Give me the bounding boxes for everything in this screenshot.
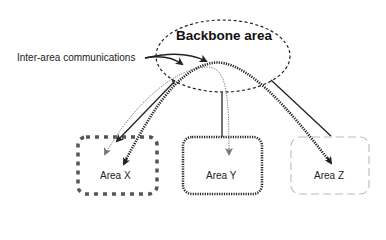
thin-dotted-arc — [106, 67, 229, 153]
inter-area-annotation: Inter-area communications — [17, 52, 135, 63]
area-z-box — [291, 137, 369, 194]
inter-area-arc — [124, 63, 330, 163]
area-y-label: Area Y — [206, 170, 236, 181]
link-backbone-x — [117, 81, 175, 141]
annotation-arrow-1 — [145, 57, 182, 64]
area-y-box — [183, 137, 262, 194]
link-backbone-z — [271, 80, 331, 136]
area-x-label: Area X — [100, 170, 131, 181]
area-z-label: Area Z — [314, 170, 344, 181]
area-x-box — [78, 137, 157, 194]
backbone-area-label: Backbone area — [176, 28, 272, 43]
